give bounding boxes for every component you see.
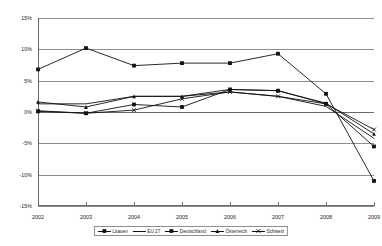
data-point-marker: [228, 61, 232, 65]
data-point-marker: [372, 179, 376, 183]
x-axis-tick-label: 2008: [320, 214, 332, 220]
x-axis-tick-label: 2003: [80, 214, 92, 220]
legend-marker-icon: [252, 228, 265, 234]
legend-item[interactable]: Deutschland: [165, 228, 206, 234]
y-axis-tick-label: 15%: [0, 15, 32, 21]
legend-item[interactable]: Schweiz: [252, 228, 284, 234]
plot-area: 15%10%5%0%-5%-10%-15% 200220032004200520…: [38, 18, 374, 206]
legend-item[interactable]: EU 27: [133, 228, 161, 234]
y-axis-tick-label: -10%: [0, 172, 32, 178]
data-point-marker: [132, 64, 136, 68]
x-axis-tick-mark: [374, 202, 375, 206]
gridline: [38, 206, 374, 207]
legend-label: Litauen: [112, 229, 127, 234]
legend-item[interactable]: Österreich: [211, 228, 247, 234]
legend-label: EU 27: [147, 229, 160, 234]
legend-label: Schweiz: [267, 229, 284, 234]
data-point-marker: [180, 61, 184, 65]
data-point-marker: [276, 52, 280, 56]
chart-legend: LitauenEU 27DeutschlandÖsterreichSchweiz: [94, 226, 288, 236]
line-chart: 15%10%5%0%-5%-10%-15% 200220032004200520…: [0, 0, 382, 246]
data-point-marker: [324, 92, 328, 96]
x-axis-tick-label: 2009: [368, 214, 380, 220]
series-line: [38, 89, 374, 146]
y-axis-tick-label: 5%: [0, 78, 32, 84]
data-point-marker: [372, 128, 376, 132]
legend-marker-icon: [98, 228, 111, 234]
legend-item[interactable]: Litauen: [98, 228, 128, 234]
legend-marker-icon: [211, 228, 224, 234]
x-axis-tick-label: 2007: [272, 214, 284, 220]
data-point-marker: [372, 145, 376, 149]
series-line: [38, 92, 374, 130]
legend-marker-icon: [133, 228, 146, 234]
legend-label: Deutschland: [180, 229, 206, 234]
data-point-marker: [36, 67, 40, 71]
legend-marker-icon: [165, 228, 178, 234]
y-axis-tick-label: -15%: [0, 203, 32, 209]
x-axis-tick-label: 2006: [224, 214, 236, 220]
data-point-marker: [132, 103, 136, 107]
y-axis-tick-label: -5%: [0, 140, 32, 146]
data-point-marker: [180, 105, 184, 109]
series-line: [38, 92, 374, 138]
y-axis-tick-label: 0%: [0, 109, 32, 115]
data-point-marker: [84, 46, 88, 50]
series-layer: [38, 18, 374, 206]
series-line: [38, 89, 374, 133]
y-axis-tick-label: 10%: [0, 46, 32, 52]
series-line: [38, 48, 374, 181]
x-axis-tick-label: 2005: [176, 214, 188, 220]
legend-label: Österreich: [225, 229, 247, 234]
x-axis-tick-label: 2004: [128, 214, 140, 220]
x-axis-tick-label: 2002: [32, 214, 44, 220]
